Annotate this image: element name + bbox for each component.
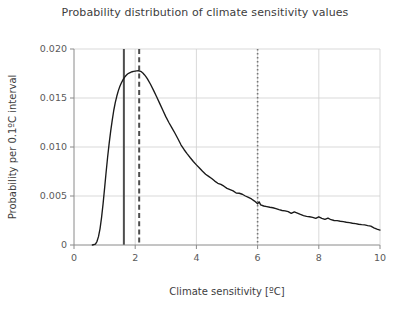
x-tick-label: 10: [374, 252, 386, 263]
y-tick-label: 0: [61, 239, 67, 250]
y-tick-label: 0.010: [40, 141, 67, 152]
y-tick-label: 0.020: [40, 43, 67, 54]
y-tick-label: 0.005: [40, 190, 67, 201]
y-tick-label: 0.015: [40, 92, 67, 103]
x-axis-title: Climate sensitivity [ºC]: [169, 286, 284, 297]
x-tick-label: 8: [316, 252, 322, 263]
gridlines: [74, 49, 380, 245]
x-tick-label: 0: [71, 252, 77, 263]
probability-distribution-plot: 00.0050.0100.0150.0200246810 Climate sen…: [0, 0, 410, 309]
chart-container: Probability distribution of climate sens…: [0, 0, 410, 309]
x-tick-label: 6: [255, 252, 261, 263]
y-axis-title: Probability per 0.1ºC interval: [7, 75, 18, 220]
axis-tick-labels: 00.0050.0100.0150.0200246810: [40, 43, 386, 263]
axis-ticks: [70, 49, 380, 249]
x-tick-label: 2: [132, 252, 138, 263]
x-tick-label: 4: [193, 252, 199, 263]
